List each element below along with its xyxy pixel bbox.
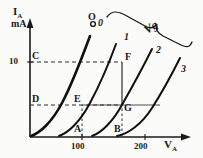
x-axis-label-sub: A — [172, 145, 177, 153]
point-label-e: E — [74, 94, 81, 104]
y-axis-arrowhead — [27, 18, 34, 28]
x-tick-label-200: 200 — [134, 142, 148, 151]
x-tick-label-100: 100 — [71, 142, 85, 151]
x-axis-arrowhead — [181, 133, 191, 140]
y-axis-unit: mA — [11, 19, 27, 29]
x-axis-label-main: V — [164, 138, 172, 150]
point-label-c: C — [32, 51, 39, 61]
y-tick-label-10: 10 — [9, 57, 18, 66]
point-label-d: D — [32, 94, 39, 104]
point-label-o: O — [88, 12, 96, 22]
curve-0 — [31, 36, 90, 136]
point-label-g: G — [124, 103, 132, 113]
point-label-a: A — [74, 124, 81, 134]
axes-group — [27, 18, 191, 141]
point-marker-o — [91, 22, 96, 27]
anode-characteristics-figure: IA mA 10 100 200 VA Vg 0 1 2 3 C D A B E… — [0, 0, 203, 158]
x-axis-label: VA — [164, 139, 177, 153]
point-label-f: F — [125, 52, 131, 62]
curve-label-1: 1 — [124, 32, 129, 42]
curve-label-3: 3 — [181, 64, 186, 74]
curve-label-2: 2 — [156, 45, 161, 55]
point-label-b: B — [114, 124, 121, 134]
curve-label-0: 0 — [98, 18, 103, 28]
